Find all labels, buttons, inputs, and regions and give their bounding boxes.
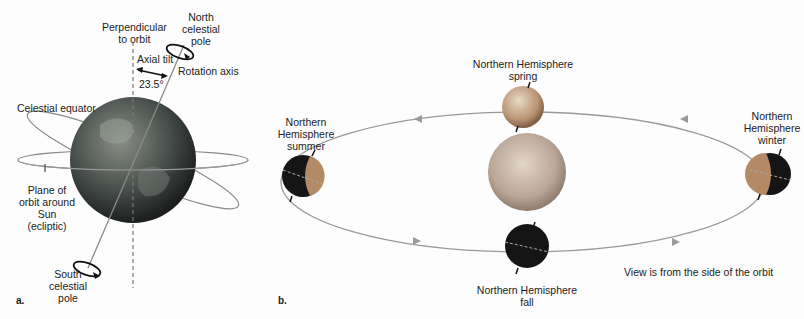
label-line: (ecliptic) (17, 220, 77, 232)
label-north-celestial-pole: North celestial pole (182, 11, 220, 47)
label-line: Northern Hemisphere (472, 284, 582, 296)
label-line: pole (182, 35, 220, 47)
label-axial-tilt: Axial tilt (137, 53, 173, 65)
label-winter: Northern Hemisphere winter (742, 110, 802, 146)
label-line: Northern (276, 116, 336, 128)
label-summer: Northern Hemisphere summer (276, 116, 336, 152)
earth-summer (282, 150, 325, 202)
label-line: Sun (17, 208, 77, 220)
label-celestial-equator: Celestial equator (17, 102, 96, 114)
label-line: Perpendicular (102, 21, 167, 33)
label-tilt-angle: 23.5° (139, 78, 164, 90)
label-line: Hemisphere (276, 128, 336, 140)
label-rotation-axis: Rotation axis (178, 65, 239, 77)
label-line: Northern Hemisphere (468, 58, 578, 70)
label-fall: Northern Hemisphere fall (472, 284, 582, 308)
label-spring: Northern Hemisphere spring (468, 58, 578, 82)
label-line: pole (48, 292, 88, 304)
panel-b-letter: b. (278, 295, 287, 306)
earth-winter (745, 149, 791, 200)
label-line: celestial (48, 280, 88, 292)
label-perpendicular-to-orbit: Perpendicular to orbit (102, 21, 167, 45)
label-line: Plane of (17, 184, 77, 196)
label-line: South (48, 268, 88, 280)
orbit-arrow-icon (680, 115, 688, 123)
label-line: winter (742, 134, 802, 146)
label-line: celestial (182, 23, 220, 35)
caption-view: View is from the side of the orbit (624, 266, 773, 278)
orbit-arrow-icon (672, 238, 680, 246)
orbit-arrow-icon (414, 115, 422, 123)
panel-b-diagram (281, 82, 791, 274)
label-line: fall (472, 296, 582, 308)
label-line: spring (468, 70, 578, 82)
earth-spring (502, 82, 544, 132)
label-line: to orbit (102, 33, 167, 45)
label-ecliptic: Plane of orbit around Sun (ecliptic) (17, 184, 77, 232)
label-line: orbit around (17, 196, 77, 208)
panel-a-letter: a. (16, 295, 24, 306)
panel-a-diagram (18, 42, 248, 288)
label-line: summer (276, 140, 336, 152)
orbit-arrow-icon (413, 237, 421, 245)
label-south-celestial-pole: South celestial pole (48, 268, 88, 304)
label-line: North (182, 11, 220, 23)
earth-fall (505, 222, 549, 274)
label-line: Hemisphere (742, 122, 802, 134)
sun (488, 133, 566, 211)
label-line: Northern (742, 110, 802, 122)
